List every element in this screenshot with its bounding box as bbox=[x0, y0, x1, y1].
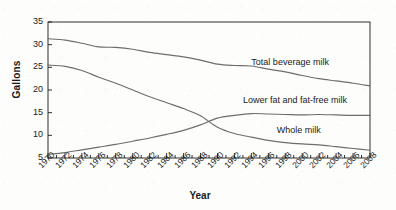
y-tick-label: 20 bbox=[21, 84, 43, 94]
x-axis-title: Year bbox=[140, 190, 260, 201]
series-label: Lower fat and fat-free milk bbox=[243, 95, 347, 105]
series-label: Whole milk bbox=[277, 125, 321, 135]
y-tick-label: 30 bbox=[21, 39, 43, 49]
series-label: Total beverage milk bbox=[251, 57, 329, 67]
y-tick-label: 25 bbox=[21, 61, 43, 71]
y-tick-label: 15 bbox=[21, 107, 43, 117]
y-tick-label: 35 bbox=[21, 16, 43, 26]
y-axis-title: Gallons bbox=[11, 50, 22, 110]
axes-group bbox=[48, 22, 370, 158]
y-tick-label: 10 bbox=[21, 129, 43, 139]
plot-canvas bbox=[0, 0, 396, 210]
tick-marks-group bbox=[48, 22, 370, 158]
milk-consumption-line-chart: Gallons Year 5101520253035 1970197219741… bbox=[0, 0, 396, 210]
